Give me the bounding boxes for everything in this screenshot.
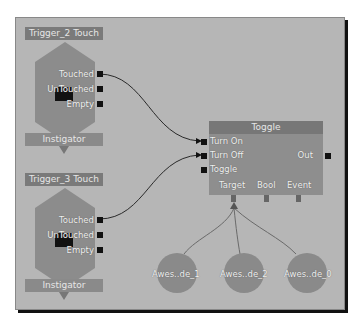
toggle-node[interactable]: Toggle Turn On Turn Off Toggle Out Targe… — [209, 121, 323, 195]
output-empty: Empty — [67, 99, 94, 109]
port-untouched[interactable] — [97, 86, 103, 92]
port-bool[interactable] — [264, 195, 269, 202]
port-event[interactable] — [296, 195, 301, 202]
input-turn-on: Turn On — [210, 136, 243, 146]
arrow-down-icon — [59, 146, 69, 154]
arrow-down-icon — [59, 292, 69, 300]
port-untouched[interactable] — [97, 232, 103, 238]
port-empty[interactable] — [97, 101, 103, 107]
port-out[interactable] — [325, 153, 331, 159]
output-touched: Touched — [59, 215, 94, 225]
arrow-up-icon — [230, 202, 238, 209]
instigator-bar: Instigator — [25, 279, 103, 292]
var-target: Target — [219, 180, 245, 190]
port-empty[interactable] — [97, 247, 103, 253]
output-untouched: UnTouched — [47, 230, 94, 240]
port-turn-on[interactable] — [201, 139, 207, 145]
variable-label-2: Awes..de_2 — [220, 269, 268, 279]
port-turn-off[interactable] — [201, 153, 207, 159]
output-empty: Empty — [67, 245, 94, 255]
port-toggle[interactable] — [201, 167, 207, 173]
port-target[interactable] — [231, 195, 236, 202]
variable-label-3: Awes..de_0 — [284, 269, 332, 279]
port-touched[interactable] — [97, 217, 103, 223]
trigger-node-title: Trigger_3 Touch — [25, 173, 103, 186]
var-event: Event — [287, 180, 311, 190]
input-toggle: Toggle — [210, 164, 237, 174]
input-turn-off: Turn Off — [210, 150, 243, 160]
trigger-node-title: Trigger_2 Touch — [25, 27, 103, 40]
trigger-node-2[interactable]: Trigger_3 Touch Touched UnTouched Empty … — [25, 173, 105, 293]
output-out: Out — [298, 150, 313, 160]
instigator-bar: Instigator — [25, 133, 103, 146]
kismet-canvas[interactable]: Trigger_2 Touch Touched UnTouched Empty … — [15, 17, 345, 310]
port-touched[interactable] — [97, 71, 103, 77]
variable-label-1: Awes..de_1 — [152, 269, 200, 279]
output-untouched: UnTouched — [47, 84, 94, 94]
toggle-node-title: Toggle — [209, 121, 323, 134]
output-touched: Touched — [59, 69, 94, 79]
trigger-node-1[interactable]: Trigger_2 Touch Touched UnTouched Empty … — [25, 27, 105, 147]
var-bool: Bool — [257, 180, 276, 190]
